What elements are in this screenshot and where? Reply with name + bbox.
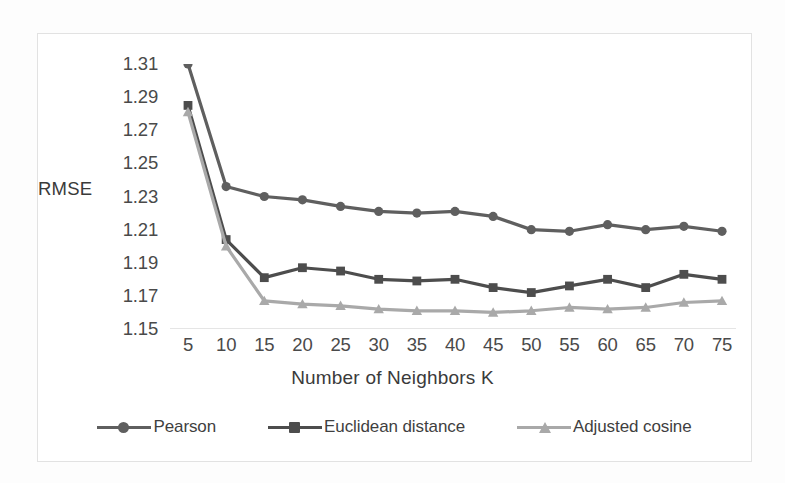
legend-item-adjusted-cosine[interactable]: Adjusted cosine [517, 417, 692, 437]
chart-legend: PearsonEuclidean distanceAdjusted cosine [37, 412, 752, 442]
circle-marker-icon [118, 422, 129, 433]
y-tick-label: 1.25 [96, 153, 158, 173]
y-tick-label: 1.31 [96, 54, 158, 74]
data-point [565, 282, 574, 291]
y-axis-tick-labels: 1.311.291.271.251.231.211.191.171.15 [96, 54, 158, 339]
legend-label: Adjusted cosine [573, 417, 692, 437]
y-tick-label: 1.27 [96, 120, 158, 140]
data-point [451, 275, 460, 284]
x-tick-label: 25 [321, 334, 361, 356]
data-point [298, 195, 307, 204]
series-line [188, 64, 722, 231]
x-tick-label: 70 [664, 334, 704, 356]
x-tick-label: 65 [626, 334, 666, 356]
x-tick-label: 30 [359, 334, 399, 356]
legend-swatch [268, 420, 322, 434]
data-point [260, 192, 269, 201]
data-point [679, 222, 688, 231]
data-point [603, 220, 612, 229]
data-point [412, 277, 421, 286]
x-tick-label: 15 [244, 334, 284, 356]
data-point [489, 212, 498, 221]
legend-item-euclidean-distance[interactable]: Euclidean distance [268, 417, 465, 437]
square-marker-icon [289, 422, 300, 433]
data-point [222, 182, 231, 191]
data-point [717, 227, 726, 236]
x-tick-label: 45 [473, 334, 513, 356]
x-axis-tick-labels: 51015202530354045505560657075 [170, 334, 736, 360]
data-point [374, 275, 383, 284]
data-point [336, 267, 345, 276]
data-point [641, 225, 650, 234]
x-tick-label: 55 [549, 334, 589, 356]
data-point [527, 288, 536, 297]
legend-swatch [517, 420, 571, 434]
x-tick-label: 20 [282, 334, 322, 356]
x-tick-label: 40 [435, 334, 475, 356]
x-tick-label: 35 [397, 334, 437, 356]
y-tick-label: 1.15 [96, 319, 158, 339]
x-axis-title: Number of Neighbors K [0, 367, 785, 389]
y-tick-label: 1.21 [96, 220, 158, 240]
data-point [679, 270, 688, 279]
data-point [527, 225, 536, 234]
data-point [489, 283, 498, 292]
data-point [641, 283, 650, 292]
y-tick-label: 1.23 [96, 187, 158, 207]
x-tick-label: 5 [168, 334, 208, 356]
x-tick-label: 75 [702, 334, 742, 356]
data-point [298, 263, 307, 272]
y-tick-label: 1.17 [96, 286, 158, 306]
y-axis-title: RMSE [38, 178, 92, 200]
data-point [412, 208, 421, 217]
y-tick-label: 1.19 [96, 253, 158, 273]
data-point [336, 202, 345, 211]
data-point [718, 275, 727, 284]
triangle-marker-icon [539, 422, 551, 433]
chart-container: RMSE 1.311.291.271.251.231.211.191.171.1… [0, 0, 785, 483]
data-point [450, 207, 459, 216]
y-tick-label: 1.29 [96, 87, 158, 107]
data-point [183, 64, 192, 69]
legend-label: Pearson [153, 417, 216, 437]
x-tick-label: 60 [588, 334, 628, 356]
x-tick-label: 10 [206, 334, 246, 356]
series-pearson [183, 64, 726, 236]
data-point [565, 227, 574, 236]
legend-item-pearson[interactable]: Pearson [97, 417, 216, 437]
series-plot [170, 64, 736, 329]
plot-area [170, 64, 736, 329]
legend-label: Euclidean distance [324, 417, 465, 437]
x-tick-label: 50 [511, 334, 551, 356]
data-point [603, 275, 612, 284]
data-point [260, 273, 269, 282]
data-point [374, 207, 383, 216]
legend-swatch [97, 420, 151, 434]
